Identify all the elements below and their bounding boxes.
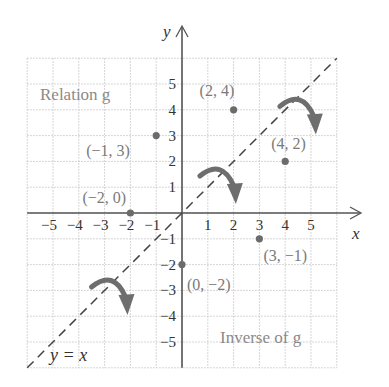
data-points: (2, 4)(−1, 3)(−2, 0)(4, 2)(3, −1)(0, −2): [82, 82, 307, 294]
point-label: (−1, 3): [86, 142, 130, 160]
coordinate-plane: (2, 4)(−1, 3)(−2, 0)(4, 2)(3, −1)(0, −2)…: [0, 0, 389, 387]
data-point: [230, 106, 237, 113]
x-axis-label: x: [351, 224, 360, 243]
point-label: (0, −2): [187, 276, 231, 294]
x-tick-label: −1: [144, 217, 160, 233]
point-label: (3, −1): [263, 247, 307, 265]
x-tick-label: 5: [307, 217, 315, 233]
y-tick-label: 3: [169, 128, 177, 144]
x-tick-label: −3: [93, 217, 109, 233]
y-tick-label: −5: [160, 334, 176, 350]
y-tick-label: 2: [169, 153, 177, 169]
relation-g-label: Relation g: [40, 85, 111, 104]
x-tick-label: −5: [41, 217, 57, 233]
data-point: [127, 209, 134, 216]
y-axis-label: y: [161, 22, 171, 41]
x-tick-label: 3: [256, 217, 264, 233]
x-tick-label: −2: [118, 217, 134, 233]
y-tick-label: 4: [169, 102, 177, 118]
x-tick-label: 4: [281, 217, 289, 233]
data-point: [153, 132, 160, 139]
y-tick-label: −3: [160, 282, 176, 298]
point-label: (4, 2): [271, 135, 306, 153]
point-label: (2, 4): [200, 82, 235, 100]
y-tick-label: −2: [160, 257, 176, 273]
y-tick-label: 5: [169, 76, 177, 92]
data-point: [282, 158, 289, 165]
inverse-of-g-label: Inverse of g: [220, 328, 302, 347]
y-tick-label: −4: [160, 308, 176, 324]
x-tick-label: 2: [230, 217, 238, 233]
line-equation-label: y = x: [48, 345, 87, 365]
x-tick-label: 1: [204, 217, 212, 233]
y-tick-label: −1: [160, 231, 176, 247]
data-point: [256, 235, 263, 242]
y-tick-label: 1: [169, 179, 177, 195]
x-tick-label: −4: [67, 217, 83, 233]
data-point: [178, 261, 185, 268]
point-label: (−2, 0): [82, 189, 126, 207]
